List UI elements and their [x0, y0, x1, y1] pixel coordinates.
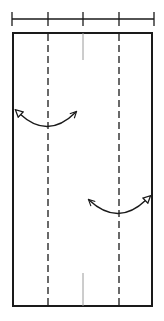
paper-panel: [13, 33, 152, 306]
fold-lines: [48, 34, 119, 305]
fold-diagram: [0, 0, 164, 321]
ruler: [12, 12, 154, 26]
right-fold-arrow: [89, 200, 146, 214]
fold-arrows: [20, 112, 146, 214]
